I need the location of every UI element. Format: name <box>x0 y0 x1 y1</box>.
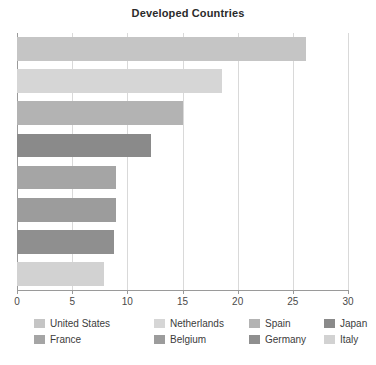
tick-mark-20 <box>238 290 239 294</box>
chart-legend: United StatesNetherlandsSpainJapanFrance… <box>34 315 354 347</box>
bar-row <box>17 134 348 158</box>
legend-label: France <box>50 334 81 345</box>
legend-swatch-icon <box>34 319 45 328</box>
legend-swatch-icon <box>324 335 335 344</box>
legend-label: Spain <box>265 318 291 329</box>
x-tick-label: 0 <box>2 296 32 307</box>
bars-layer <box>17 33 348 290</box>
x-tick-label: 25 <box>278 296 308 307</box>
x-tick-label: 5 <box>57 296 87 307</box>
legend-label: Japan <box>340 318 367 329</box>
legend-swatch-icon <box>249 319 260 328</box>
legend-label: Germany <box>265 334 306 345</box>
x-tick-label: 15 <box>168 296 198 307</box>
bar-netherlands[interactable] <box>17 69 222 93</box>
legend-label: Belgium <box>170 334 206 345</box>
legend-row: FranceBelgiumGermanyItaly <box>34 331 354 347</box>
legend-row: United StatesNetherlandsSpainJapan <box>34 315 354 331</box>
tick-mark-25 <box>293 290 294 294</box>
legend-swatch-icon <box>154 319 165 328</box>
legend-label: Netherlands <box>170 318 224 329</box>
bar-japan[interactable] <box>17 134 151 158</box>
bar-chart-figure: Developed Countries 051015202530 United … <box>0 0 376 365</box>
tick-mark-5 <box>72 290 73 294</box>
legend-swatch-icon <box>154 335 165 344</box>
legend-item-united-states[interactable]: United States <box>34 315 110 331</box>
plot-area <box>17 33 348 290</box>
legend-item-italy[interactable]: Italy <box>324 331 358 347</box>
legend-swatch-icon <box>249 335 260 344</box>
tick-mark-30 <box>348 290 349 294</box>
bar-row <box>17 69 348 93</box>
tick-mark-15 <box>183 290 184 294</box>
chart-title: Developed Countries <box>0 7 376 19</box>
x-tick-label: 30 <box>333 296 363 307</box>
bar-row <box>17 198 348 222</box>
x-tick-label: 10 <box>112 296 142 307</box>
gridline-30 <box>348 33 349 290</box>
bar-spain[interactable] <box>17 101 183 125</box>
legend-item-germany[interactable]: Germany <box>249 331 306 347</box>
legend-swatch-icon <box>34 335 45 344</box>
legend-item-netherlands[interactable]: Netherlands <box>154 315 224 331</box>
bar-row <box>17 166 348 190</box>
bar-row <box>17 262 348 286</box>
legend-item-france[interactable]: France <box>34 331 81 347</box>
legend-label: United States <box>50 318 110 329</box>
bar-belgium[interactable] <box>17 198 116 222</box>
legend-swatch-icon <box>324 319 335 328</box>
legend-item-spain[interactable]: Spain <box>249 315 291 331</box>
bar-france[interactable] <box>17 166 116 190</box>
bar-united-states[interactable] <box>17 37 306 61</box>
tick-mark-0 <box>17 290 18 294</box>
bar-germany[interactable] <box>17 230 114 254</box>
bar-row <box>17 37 348 61</box>
legend-item-belgium[interactable]: Belgium <box>154 331 206 347</box>
tick-mark-10 <box>127 290 128 294</box>
legend-item-japan[interactable]: Japan <box>324 315 367 331</box>
x-tick-label: 20 <box>223 296 253 307</box>
legend-label: Italy <box>340 334 358 345</box>
bar-row <box>17 230 348 254</box>
bar-italy[interactable] <box>17 262 104 286</box>
bar-row <box>17 101 348 125</box>
